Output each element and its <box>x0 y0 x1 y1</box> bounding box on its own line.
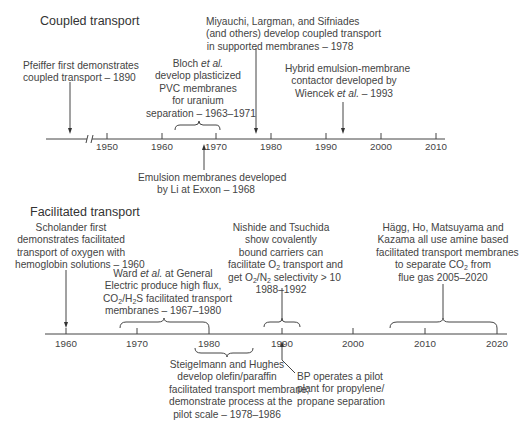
coupled-tick-1970: 1970 <box>205 141 227 152</box>
hagg-label: Hägg, Ho, Matsuyama and Kazama all use a… <box>376 222 510 284</box>
ward-label: Ward et al. at General Electric produce … <box>103 268 223 318</box>
nishide-label: Nishide and Tsuchida show covalently bou… <box>228 222 334 296</box>
coupled-axis-ticks <box>107 133 436 139</box>
steigelmann-label: Steigelmann and Hughes develop olefin/pa… <box>169 359 285 421</box>
bloch-brace-icon <box>175 121 220 130</box>
facilitated-tick-2000: 2000 <box>342 338 364 349</box>
coupled-tick-1950: 1950 <box>96 141 118 152</box>
facilitated-tick-1990: 1990 <box>271 338 293 349</box>
facilitated-tick-2020: 2020 <box>486 338 508 349</box>
coupled-tick-2010: 2010 <box>425 141 447 152</box>
facilitated-axis-ticks <box>66 328 497 334</box>
hybrid-label: Hybrid emulsion-membrane contactor devel… <box>285 63 403 100</box>
coupled-tick-1980: 1980 <box>260 141 282 152</box>
axis-break-icon <box>86 135 93 143</box>
facilitated-transport-title: Facilitated transport <box>30 205 140 219</box>
scholander-label: Scholander first demonstrates facilitate… <box>15 222 127 272</box>
facilitated-tick-1980: 1980 <box>198 338 220 349</box>
coupled-tick-1960: 1960 <box>151 141 173 152</box>
ward-brace-icon <box>120 318 209 328</box>
facilitated-tick-2010: 2010 <box>414 338 436 349</box>
pfeiffer-label: Pfeiffer first demonstrates coupled tran… <box>23 60 133 85</box>
coupled-transport-title: Coupled transport <box>40 14 139 28</box>
facilitated-tick-1970: 1970 <box>126 338 148 349</box>
bp-label: BP operates a pilot plant for propylene/… <box>297 371 397 408</box>
coupled-tick-2000: 2000 <box>370 141 392 152</box>
hagg-brace-icon <box>390 318 497 328</box>
coupled-tick-1990: 1990 <box>315 141 337 152</box>
li-exxon-label: Emulsion membranes developed by Li at Ex… <box>138 172 274 197</box>
bloch-label: Bloch et al. develop plasticized PVC mem… <box>146 58 250 120</box>
miyauchi-label: Miyauchi, Largman, and Sifniades (and ot… <box>206 16 354 53</box>
steigelmann-brace-icon <box>195 348 253 357</box>
facilitated-tick-1960: 1960 <box>55 338 77 349</box>
nishide-brace-icon <box>264 318 300 327</box>
